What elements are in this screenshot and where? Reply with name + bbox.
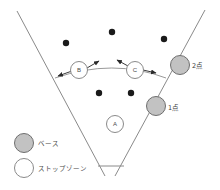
base-label-1: 1点 <box>168 104 179 112</box>
legend-base-swatch <box>15 134 34 153</box>
stop-zone-a[interactable]: A <box>107 116 124 133</box>
player-dot <box>63 40 69 46</box>
stop-zone-b[interactable]: B <box>71 62 88 79</box>
legend-item-stop-zone: ストップゾーン <box>15 159 88 178</box>
stop-zone-c[interactable]: C <box>127 62 144 79</box>
base-marker-2[interactable]: 2点 <box>171 56 204 75</box>
base-marker-1[interactable]: 1点 <box>147 97 180 116</box>
stop-zone-group: B C A <box>71 62 144 133</box>
player-dot <box>109 29 115 35</box>
legend: ベース ストップゾーン <box>15 134 88 178</box>
base-label-2: 2点 <box>192 62 203 70</box>
field-diagram-svg: 2点 1点 B C A ベース <box>0 0 220 190</box>
legend-stop-zone-swatch <box>15 159 34 178</box>
legend-item-base: ベース <box>15 134 60 153</box>
field-left-edge <box>17 11 105 176</box>
arrow-c-left <box>117 60 128 66</box>
stop-zone-label-c: C <box>133 67 138 73</box>
player-dot <box>161 36 167 42</box>
stop-zone-label-a: A <box>113 121 117 127</box>
base-group: 2点 1点 <box>147 56 204 116</box>
stop-zone-label-b: B <box>77 67 81 73</box>
diagram-canvas: 2点 1点 B C A ベース <box>0 0 220 190</box>
base-circle-2[interactable] <box>171 56 190 75</box>
legend-base-label: ベース <box>38 140 59 148</box>
base-circle-1[interactable] <box>147 97 166 116</box>
player-dot <box>128 90 134 96</box>
arrow-b-right <box>87 61 99 68</box>
player-dot <box>96 90 102 96</box>
legend-stop-zone-label: ストップゾーン <box>38 165 87 173</box>
